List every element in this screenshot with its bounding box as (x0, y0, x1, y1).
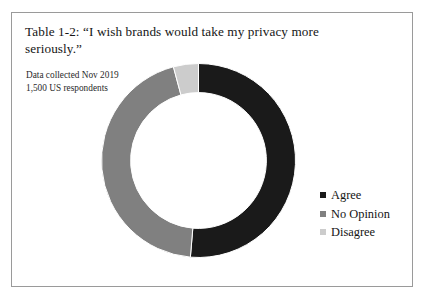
donut-segment-agree (190, 64, 295, 258)
legend-item-label: Agree (331, 189, 361, 201)
legend-swatch-icon (320, 229, 326, 235)
legend-swatch-icon (320, 192, 326, 198)
chart-legend: AgreeNo OpinionDisagree (320, 186, 412, 242)
figure-frame: Table 1-2: “I wish brands would take my … (11, 12, 413, 287)
legend-item-label: No Opinion (331, 208, 390, 220)
donut-chart (96, 58, 301, 263)
legend-item-label: Disagree (331, 226, 375, 238)
donut-segment-no-opinion (102, 67, 193, 257)
legend-item-no-opinion[interactable]: No Opinion (320, 205, 412, 224)
legend-item-agree[interactable]: Agree (320, 186, 412, 205)
chart-title: Table 1-2: “I wish brands would take my … (25, 23, 347, 57)
legend-swatch-icon (320, 211, 326, 217)
legend-item-disagree[interactable]: Disagree (320, 223, 412, 242)
donut-segment-group (102, 64, 296, 258)
donut-chart-svg (96, 58, 301, 263)
